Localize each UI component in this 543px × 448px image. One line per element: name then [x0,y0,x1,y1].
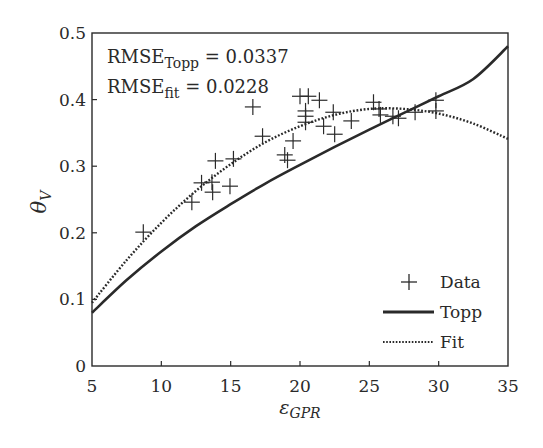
x-label-sub: GPR [290,405,322,421]
x-tick-label: 35 [497,376,519,396]
data-point [316,118,332,134]
x-tick-label: 20 [289,376,311,396]
data-point [225,151,241,167]
data-point [255,128,271,144]
data-point [204,174,220,190]
annotation-rmse-fit: RMSEfit = 0.0228 [107,76,269,101]
x-tick-label: 15 [220,376,242,396]
data-point [245,99,261,115]
svg-text:RMSEfit = 0.0228: RMSEfit = 0.0228 [107,76,269,101]
legend: Data Topp Fit [383,272,482,352]
svg-text:RMSETopp = 0.0337: RMSETopp = 0.0337 [107,46,289,71]
annotation-sub: fit [164,85,179,101]
annotation-value: = 0.0337 [199,46,289,67]
x-axis-label: εGPR [279,396,321,421]
x-tick-label: 30 [428,376,450,396]
legend-item-data: Data [401,272,481,292]
y-tick-label: 0 [75,356,86,376]
data-point [311,92,327,108]
annotation-main: RMSE [107,46,164,67]
annotation-rmse-topp: RMSETopp = 0.0337 [107,46,289,71]
annotation-sub: Topp [164,55,199,71]
data-point [207,153,223,169]
data-point [285,133,301,149]
data-point [135,224,151,240]
y-tick-label: 0.2 [59,223,86,243]
y-tick-label: 0.1 [59,289,86,309]
legend-label-fit: Fit [440,332,464,352]
data-point [194,175,210,191]
annotation-main: RMSE [107,76,164,97]
y-axis-label: θV [27,189,54,214]
legend-label-topp: Topp [440,302,482,322]
x-tick-label: 10 [151,376,173,396]
data-point [325,104,341,120]
annotation-value: = 0.0228 [179,76,269,97]
y-label-sub: V [38,189,54,201]
y-tick-label: 0.3 [59,156,86,176]
data-point [300,88,316,104]
x-tick-label: 25 [359,376,381,396]
y-axis-ticks: 00.10.20.30.40.5 [59,23,97,376]
data-point [327,126,343,142]
data-point [222,178,238,194]
data-point [343,113,359,129]
y-label-main: θ [27,200,51,213]
data-point [428,103,444,119]
x-tick-label: 5 [87,376,98,396]
data-point [407,104,423,120]
svg-text:θV: θV [27,189,54,214]
legend-label-data: Data [440,272,481,292]
data-point [205,184,221,200]
legend-item-topp: Topp [383,302,482,322]
data-markers [135,88,444,240]
legend-item-fit: Fit [383,332,464,352]
y-tick-label: 0.5 [59,23,86,43]
x-label-main: ε [279,396,289,418]
chart: 5101520253035 00.10.20.30.40.5 RMSETopp … [0,0,543,448]
data-point [184,194,200,210]
svg-text:εGPR: εGPR [279,396,321,421]
y-tick-label: 0.4 [59,90,86,110]
